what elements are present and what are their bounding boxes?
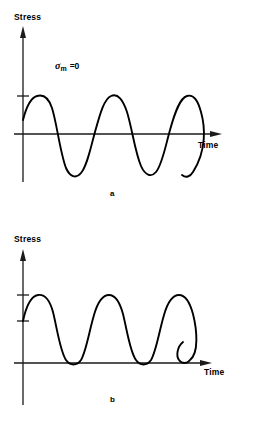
- figure-panel-b: Stress Time b: [0, 215, 253, 429]
- panel-caption-b: b: [110, 395, 115, 404]
- sigma-equals-zero: =0: [70, 61, 80, 71]
- mean-stress-annotation-a: σm=0: [55, 60, 79, 72]
- y-axis-b: [20, 249, 26, 405]
- stress-curve-a: [23, 95, 204, 176]
- stress-time-plot-b: [0, 215, 253, 429]
- x-axis-label-b: Time: [204, 367, 225, 377]
- x-axis-label-a: Time: [198, 140, 219, 150]
- sigma-subscript: m: [60, 65, 66, 72]
- figure-panel-a: Stress σm=0 Time a: [0, 0, 253, 215]
- y-axis-a: [20, 26, 26, 182]
- stress-curve-b: [23, 295, 196, 365]
- stress-time-plot-a: [0, 0, 253, 215]
- panel-caption-a: a: [110, 189, 114, 198]
- x-axis-a: [14, 131, 222, 137]
